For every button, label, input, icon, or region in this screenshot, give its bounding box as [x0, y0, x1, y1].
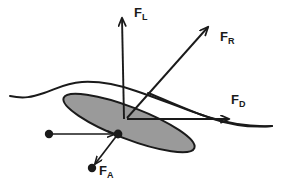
- applied-force-vector: [95, 134, 118, 164]
- force-diagram-figure: FL FR FD FA: [0, 0, 281, 189]
- resultant-force-subscript: R: [228, 36, 235, 46]
- drag-force-subscript: D: [239, 99, 246, 109]
- drag-force-symbol: F: [231, 92, 239, 107]
- lift-force-symbol: F: [134, 5, 142, 20]
- lift-force-subscript: L: [142, 12, 148, 22]
- resultant-force-label: FR: [220, 30, 234, 43]
- resultant-force-vector: [127, 27, 208, 118]
- applied-force-symbol: F: [99, 163, 107, 178]
- lift-force-label: FL: [134, 6, 147, 19]
- flow-origin-dot: [45, 130, 53, 138]
- applied-force-label: FA: [99, 164, 113, 177]
- drag-force-label: FD: [231, 93, 245, 106]
- disc-contact-node: [114, 130, 123, 139]
- resultant-force-symbol: F: [220, 29, 228, 44]
- applied-force-endpoint-dot: [88, 164, 96, 172]
- inclined-disc: [58, 83, 200, 163]
- applied-force-subscript: A: [107, 170, 114, 180]
